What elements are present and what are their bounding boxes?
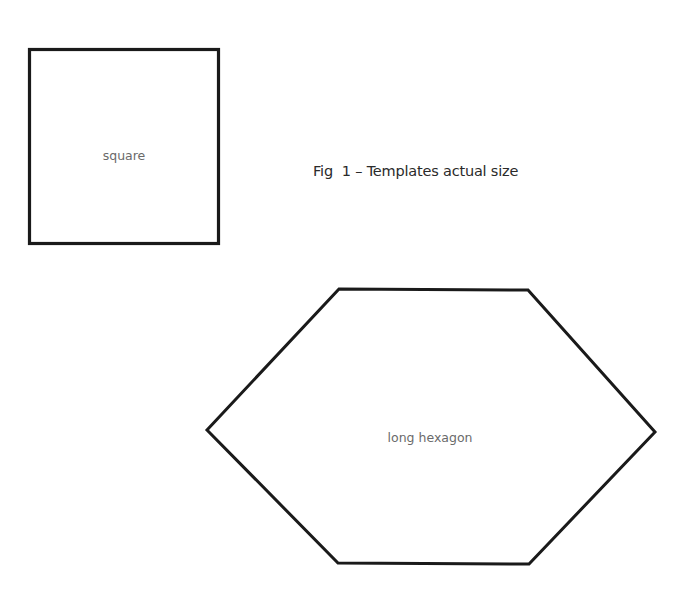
long-hexagon-template [207, 289, 655, 564]
square-template [30, 50, 219, 244]
templates-diagram: square long hexagon [0, 0, 683, 605]
square-label: square [103, 148, 146, 163]
long-hexagon-label: long hexagon [388, 430, 473, 445]
figure-caption: Fig 1 – Templates actual size [313, 163, 518, 179]
